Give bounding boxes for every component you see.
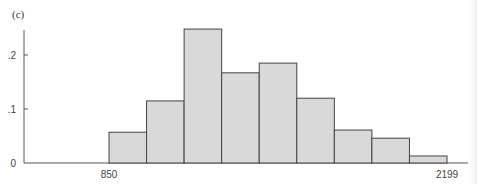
histogram-bar xyxy=(184,29,222,163)
histogram-bar xyxy=(259,63,297,163)
histogram-bar xyxy=(409,156,447,163)
histogram-bar xyxy=(222,73,260,163)
histogram-bar xyxy=(109,132,147,163)
histogram-bar xyxy=(372,138,410,163)
histogram: 0.1.2 8502199 xyxy=(0,0,477,184)
histogram-bar xyxy=(147,101,185,163)
y-tick-label: 0 xyxy=(10,158,16,169)
y-ticks: 0.1.2 xyxy=(8,50,28,169)
histogram-bar xyxy=(297,98,335,163)
y-tick-label: .1 xyxy=(8,104,17,115)
y-tick-label: .2 xyxy=(8,50,17,61)
x-ticks: 8502199 xyxy=(101,169,459,180)
x-tick-label: 2199 xyxy=(436,169,459,180)
bars xyxy=(109,29,447,163)
x-tick-label: 850 xyxy=(101,169,118,180)
histogram-bar xyxy=(334,130,372,163)
